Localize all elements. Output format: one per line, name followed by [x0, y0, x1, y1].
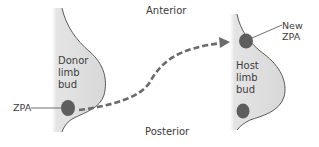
arrow-head-icon: [219, 37, 230, 48]
limb-bud-transplant-diagram: [0, 0, 319, 147]
donor-zpa-label: ZPA: [13, 102, 31, 113]
host-bud-label: Host limb bud: [236, 60, 259, 96]
host-zpa-spot: [237, 104, 250, 119]
donor-bud-label: Donor limb bud: [58, 55, 88, 91]
donor-zpa-spot: [61, 100, 75, 116]
new-zpa-leader-line: [252, 25, 282, 38]
new-zpa-spot: [239, 34, 253, 49]
anterior-label: Anterior: [146, 5, 186, 16]
posterior-label: Posterior: [145, 126, 189, 137]
new-zpa-label: New ZPA: [282, 20, 303, 42]
